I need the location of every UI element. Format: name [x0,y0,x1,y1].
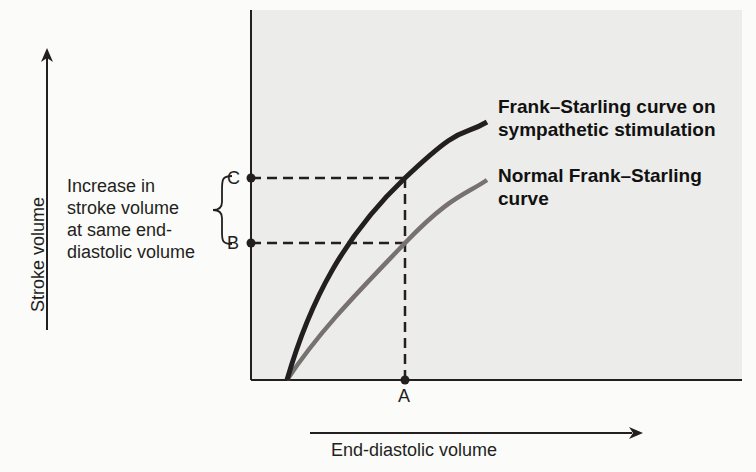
frank-starling-figure: Stroke volume End-diastolic volume Incre… [0,0,756,472]
annotation-text: Increase in stroke volume at same end- d… [67,175,217,263]
legend-normal-line-2: curve [498,187,702,210]
legend-normal-line-1: Normal Frank–Starling [498,164,702,187]
point-b-dot [247,239,256,248]
point-b-label: B [227,233,239,254]
point-c-label: C [227,168,240,189]
legend-sympathetic-line-2: sympathetic stimulation [498,118,716,141]
y-axis-label: Stroke volume [28,152,50,312]
legend-sympathetic-line-1: Frank–Starling curve on [498,95,716,118]
annotation-line-3: at same end- [67,219,217,241]
legend-sympathetic: Frank–Starling curve on sympathetic stim… [498,95,716,141]
x-axis-label: End-diastolic volume [331,440,497,461]
annotation-line-1: Increase in [67,175,217,197]
legend-normal: Normal Frank–Starling curve [498,164,702,210]
point-a-dot [401,376,410,385]
point-c-dot [247,174,256,183]
point-a-label: A [398,386,410,407]
annotation-line-4: diastolic volume [67,241,217,263]
annotation-line-2: stroke volume [67,197,217,219]
